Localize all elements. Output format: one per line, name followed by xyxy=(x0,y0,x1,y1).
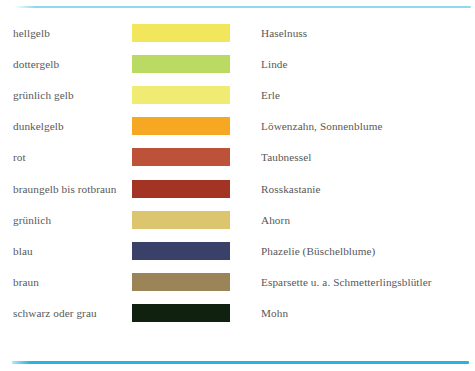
colour-shade-label: dunkelgelb xyxy=(0,120,132,132)
legend-page: hellgelbHaselnussdottergelbLindegrünlich… xyxy=(0,0,475,371)
colour-swatch xyxy=(132,148,230,166)
colour-shade-label: schwarz oder grau xyxy=(0,307,132,319)
colour-swatch xyxy=(132,242,230,260)
plant-name-label: Taubnessel xyxy=(244,151,475,163)
colour-swatch xyxy=(132,273,230,291)
colour-shade-label: rot xyxy=(0,151,132,163)
plant-name-label: Mohn xyxy=(244,307,475,319)
plant-name-label: Ahorn xyxy=(244,214,475,226)
bottom-divider-rule xyxy=(12,361,469,364)
colour-swatch-cell xyxy=(132,117,244,135)
colour-swatch xyxy=(132,86,230,104)
colour-swatch xyxy=(132,180,230,198)
table-row: grünlich gelbErle xyxy=(0,79,475,110)
colour-swatch-cell xyxy=(132,242,244,260)
table-row: schwarz oder grauMohn xyxy=(0,298,475,329)
pollen-colour-table: hellgelbHaselnussdottergelbLindegrünlich… xyxy=(0,17,475,329)
colour-swatch-cell xyxy=(132,273,244,291)
colour-swatch xyxy=(132,24,230,42)
colour-shade-label: braungelb bis rotbraun xyxy=(0,183,132,195)
table-row: rotTaubnessel xyxy=(0,142,475,173)
table-row: grünlichAhorn xyxy=(0,204,475,235)
plant-name-label: Löwenzahn, Sonnenblume xyxy=(244,120,475,132)
plant-name-label: Linde xyxy=(244,58,475,70)
plant-name-label: Erle xyxy=(244,89,475,101)
table-row: dunkelgelbLöwenzahn, Sonnenblume xyxy=(0,111,475,142)
table-row: hellgelbHaselnuss xyxy=(0,17,475,48)
colour-swatch xyxy=(132,211,230,229)
colour-swatch-cell xyxy=(132,211,244,229)
colour-swatch-cell xyxy=(132,180,244,198)
colour-shade-label: grünlich gelb xyxy=(0,89,132,101)
colour-swatch-cell xyxy=(132,24,244,42)
table-row: blauPhazelie (Büschelblume) xyxy=(0,235,475,266)
table-row: braunEsparsette u. a. Schmetterlingsblüt… xyxy=(0,267,475,298)
colour-shade-label: hellgelb xyxy=(0,27,132,39)
table-row: braungelb bis rotbraunRosskastanie xyxy=(0,173,475,204)
colour-shade-label: dottergelb xyxy=(0,58,132,70)
colour-swatch-cell xyxy=(132,55,244,73)
colour-swatch-cell xyxy=(132,86,244,104)
colour-shade-label: braun xyxy=(0,276,132,288)
plant-name-label: Haselnuss xyxy=(244,27,475,39)
plant-name-label: Phazelie (Büschelblume) xyxy=(244,245,475,257)
colour-shade-label: blau xyxy=(0,245,132,257)
plant-name-label: Rosskastanie xyxy=(244,183,475,195)
colour-swatch-cell xyxy=(132,148,244,166)
colour-swatch xyxy=(132,55,230,73)
colour-swatch xyxy=(132,304,230,322)
colour-swatch-cell xyxy=(132,304,244,322)
plant-name-label: Esparsette u. a. Schmetterlingsblütler xyxy=(244,276,475,288)
table-row: dottergelbLinde xyxy=(0,48,475,79)
colour-swatch xyxy=(132,117,230,135)
colour-shade-label: grünlich xyxy=(0,214,132,226)
top-divider-rule xyxy=(14,6,471,8)
